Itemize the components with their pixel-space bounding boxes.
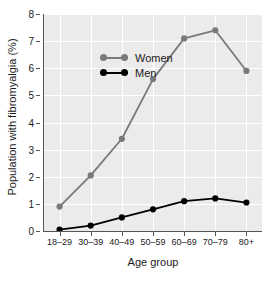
data-point-women (181, 35, 187, 41)
y-tick-mark (36, 41, 40, 42)
x-axis-ticks: 18–2930–3940–4950–5960–6970–7980+ (44, 232, 262, 254)
legend-key-women (100, 52, 130, 64)
x-tick-label: 60–69 (172, 237, 197, 247)
legend-item-men: Men (100, 65, 200, 80)
data-point-women (56, 203, 62, 209)
y-tick-label: 1 (28, 198, 34, 209)
y-tick-label: 7 (28, 36, 34, 47)
data-point-men (150, 206, 156, 212)
y-tick-label: 3 (28, 144, 34, 155)
x-tick-label: 30–39 (78, 237, 103, 247)
legend-marker-women-start (100, 54, 107, 61)
y-tick-label: 0 (28, 226, 34, 237)
data-point-men (212, 195, 218, 201)
x-tick-mark (215, 232, 216, 236)
chart-figure: Population with fibromyalgia (%) 0123456… (0, 0, 271, 284)
y-tick-mark (36, 68, 40, 69)
series-line-men (60, 198, 247, 229)
x-tick-mark (91, 232, 92, 236)
y-tick-label: 5 (28, 90, 34, 101)
plot-panel: Women Men (44, 14, 262, 231)
data-point-men (181, 198, 187, 204)
x-tick-label: 18–29 (47, 237, 72, 247)
x-tick-label: 80+ (239, 237, 254, 247)
series-plot-area (44, 14, 262, 231)
x-tick-mark (184, 232, 185, 236)
data-point-men (243, 199, 249, 205)
data-point-men (119, 214, 125, 220)
y-tick-mark (36, 177, 40, 178)
y-tick-mark (36, 14, 40, 15)
y-tick-mark (36, 204, 40, 205)
x-tick-label: 40–49 (109, 237, 134, 247)
y-tick-label: 6 (28, 63, 34, 74)
legend-marker-women-end (121, 54, 128, 61)
y-tick-label: 8 (28, 9, 34, 20)
legend: Women Men (100, 50, 200, 80)
data-point-men (56, 227, 62, 231)
x-tick-mark (60, 232, 61, 236)
x-tick-label: 50–59 (140, 237, 165, 247)
legend-label-men: Men (135, 67, 156, 79)
data-point-women (212, 27, 218, 33)
x-tick-label: 70–79 (203, 237, 228, 247)
data-point-women (88, 172, 94, 178)
legend-label-women: Women (135, 52, 173, 64)
legend-marker-men-end (121, 69, 128, 76)
x-tick-mark (246, 232, 247, 236)
x-tick-mark (122, 232, 123, 236)
y-tick-mark (36, 231, 40, 232)
y-tick-mark (36, 150, 40, 151)
x-tick-mark (153, 232, 154, 236)
y-tick-mark (36, 95, 40, 96)
legend-item-women: Women (100, 50, 200, 65)
x-axis-title: Age group (44, 256, 262, 268)
legend-marker-men-start (100, 69, 107, 76)
data-point-men (88, 222, 94, 228)
y-axis-ticks: 012345678 (18, 0, 40, 284)
data-point-women (243, 68, 249, 74)
legend-key-men (100, 67, 130, 79)
y-tick-mark (36, 123, 40, 124)
data-point-women (119, 136, 125, 142)
y-tick-label: 4 (28, 117, 34, 128)
y-tick-label: 2 (28, 171, 34, 182)
